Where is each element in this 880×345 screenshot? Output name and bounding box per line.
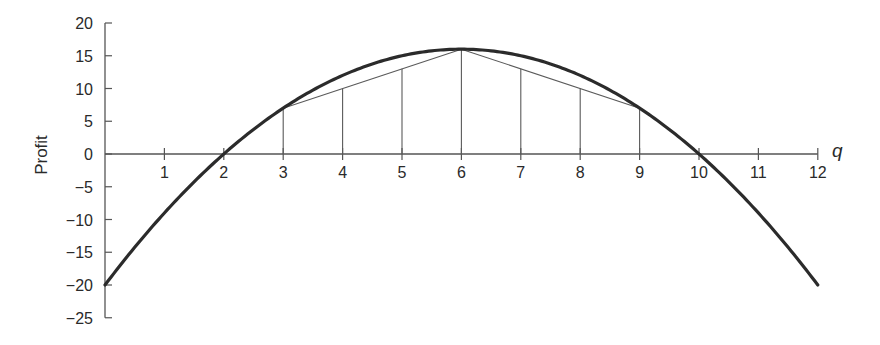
x-tick-label: 12 [809, 164, 827, 181]
y-tick-label: −5 [75, 179, 93, 196]
x-ticks: 123456789101112 [160, 148, 827, 181]
x-axis-title: q [832, 140, 843, 161]
x-tick-label: 1 [160, 164, 169, 181]
profit-chart: 20151050−5−10−15−20−25 123456789101112 P… [0, 0, 880, 345]
y-tick-label: −20 [66, 277, 93, 294]
x-tick-label: 5 [398, 164, 407, 181]
x-tick-label: 7 [516, 164, 525, 181]
chord-right [461, 49, 639, 108]
x-tick-label: 8 [576, 164, 585, 181]
x-tick-label: 2 [219, 164, 228, 181]
vertical-segments [283, 49, 639, 154]
x-tick-label: 10 [690, 164, 708, 181]
x-tick-label: 6 [457, 164, 466, 181]
y-tick-label: 20 [75, 15, 93, 32]
y-tick-label: 0 [84, 146, 93, 163]
y-tick-label: 15 [75, 48, 93, 65]
y-tick-label: −25 [66, 310, 93, 327]
x-tick-label: 4 [338, 164, 347, 181]
chord-left [283, 49, 461, 108]
y-tick-label: −15 [66, 244, 93, 261]
x-tick-label: 11 [750, 164, 767, 181]
x-tick-label: 3 [279, 164, 288, 181]
y-tick-label: 10 [75, 81, 93, 98]
y-tick-label: 5 [84, 113, 93, 130]
y-axis-title: Profit [32, 135, 51, 175]
x-tick-label: 9 [635, 164, 644, 181]
y-tick-label: −10 [66, 212, 93, 229]
